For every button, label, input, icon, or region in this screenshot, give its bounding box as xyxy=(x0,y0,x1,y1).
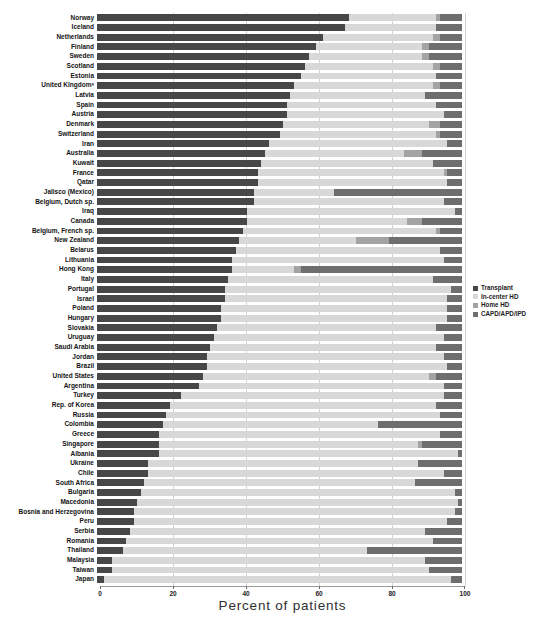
bar-row: United Kingdomᵃ xyxy=(0,81,465,91)
segment-capd-apd-ipd xyxy=(425,92,462,99)
bar-row: Israel xyxy=(0,294,465,304)
segment-transplant xyxy=(97,53,309,60)
stacked-bar xyxy=(97,305,462,312)
segment-transplant xyxy=(97,450,159,457)
stacked-bar xyxy=(97,450,462,457)
country-label: Hungary xyxy=(0,315,97,322)
segment-transplant xyxy=(97,315,221,322)
segment-capd-apd-ipd xyxy=(440,14,462,21)
segment-home-hd xyxy=(433,63,440,70)
segment-capd-apd-ipd xyxy=(425,557,462,564)
segment-in-center-hd xyxy=(349,14,437,21)
segment-capd-apd-ipd xyxy=(429,43,462,50)
country-label: Greece xyxy=(0,431,97,438)
legend-swatch-icon xyxy=(473,286,478,291)
segment-capd-apd-ipd xyxy=(429,567,462,574)
segment-transplant xyxy=(97,34,323,41)
bar-row: Denmark xyxy=(0,120,465,130)
segment-transplant xyxy=(97,63,305,70)
segment-capd-apd-ipd xyxy=(444,392,462,399)
bar-row: Rep. of Korea xyxy=(0,401,465,411)
segment-capd-apd-ipd xyxy=(455,208,462,215)
country-label: Israel xyxy=(0,296,97,303)
segment-capd-apd-ipd xyxy=(440,228,462,235)
segment-transplant xyxy=(97,479,144,486)
country-label: Singapore xyxy=(0,441,97,448)
segment-capd-apd-ipd xyxy=(440,131,462,138)
country-label: Belgium, French sp. xyxy=(0,228,97,235)
stacked-bar xyxy=(97,198,462,205)
segment-capd-apd-ipd xyxy=(422,150,462,157)
segment-transplant xyxy=(97,508,134,515)
bar-row: Taiwan xyxy=(0,565,465,575)
country-label: Austria xyxy=(0,111,97,118)
bar-row: Japan xyxy=(0,575,465,585)
stacked-bar xyxy=(97,34,462,41)
segment-transplant xyxy=(97,257,232,264)
stacked-bar xyxy=(97,189,462,196)
segment-capd-apd-ipd xyxy=(422,218,462,225)
segment-transplant xyxy=(97,247,236,254)
segment-capd-apd-ipd xyxy=(447,518,462,525)
segment-transplant xyxy=(97,111,287,118)
country-label: Belarus xyxy=(0,247,97,254)
segment-transplant xyxy=(97,160,261,167)
country-label: Australia xyxy=(0,150,97,157)
bar-row: Romania xyxy=(0,536,465,546)
stacked-bar xyxy=(97,508,462,515)
stacked-bar xyxy=(97,402,462,409)
x-tick-label: 40 xyxy=(242,590,249,597)
country-label: United States xyxy=(0,373,97,380)
stacked-bar xyxy=(97,460,462,467)
segment-transplant xyxy=(97,228,243,235)
bar-row: Iraq xyxy=(0,207,465,217)
segment-in-center-hd xyxy=(309,53,422,60)
segment-capd-apd-ipd xyxy=(301,266,462,273)
stacked-bar xyxy=(97,567,462,574)
country-label: Denmark xyxy=(0,121,97,128)
stacked-bar xyxy=(97,518,462,525)
segment-transplant xyxy=(97,363,207,370)
segment-in-center-hd xyxy=(159,450,458,457)
bar-row: Latvia xyxy=(0,91,465,101)
segment-transplant xyxy=(97,276,228,283)
x-tick-mark xyxy=(319,586,320,589)
x-tick-mark xyxy=(392,586,393,589)
stacked-bar xyxy=(97,576,462,583)
stacked-bar xyxy=(97,92,462,99)
country-label: United Kingdomᵃ xyxy=(0,82,97,89)
segment-in-center-hd xyxy=(123,547,368,554)
bar-row: Turkey xyxy=(0,391,465,401)
segment-in-center-hd xyxy=(301,73,436,80)
stacked-bar xyxy=(97,392,462,399)
segment-in-center-hd xyxy=(269,140,448,147)
segment-transplant xyxy=(97,198,254,205)
stacked-bar xyxy=(97,286,462,293)
segment-capd-apd-ipd xyxy=(436,324,462,331)
segment-in-center-hd xyxy=(134,518,448,525)
stacked-bar xyxy=(97,344,462,351)
country-label: Jordan xyxy=(0,354,97,361)
segment-capd-apd-ipd xyxy=(334,189,462,196)
country-label: Norway xyxy=(0,15,97,22)
x-tick-mark xyxy=(246,586,247,589)
segment-transplant xyxy=(97,518,134,525)
bar-row: Bulgaria xyxy=(0,488,465,498)
country-label: Hong Kong xyxy=(0,266,97,273)
segment-home-hd xyxy=(407,218,422,225)
segment-in-center-hd xyxy=(258,179,448,186)
bar-row: Estonia xyxy=(0,71,465,81)
segment-in-center-hd xyxy=(221,315,447,322)
segment-capd-apd-ipd xyxy=(440,121,462,128)
bar-row: Chile xyxy=(0,468,465,478)
country-label: Peru xyxy=(0,518,97,525)
segment-capd-apd-ipd xyxy=(433,276,462,283)
stacked-bar xyxy=(97,383,462,390)
segment-capd-apd-ipd xyxy=(444,257,462,264)
segment-capd-apd-ipd xyxy=(447,295,462,302)
bar-rows: NorwayIcelandNetherlandsFinlandSwedenSco… xyxy=(0,13,465,585)
segment-capd-apd-ipd xyxy=(440,34,462,41)
stacked-bar xyxy=(97,557,462,564)
segment-in-center-hd xyxy=(159,431,440,438)
bar-row: Uruguay xyxy=(0,333,465,343)
